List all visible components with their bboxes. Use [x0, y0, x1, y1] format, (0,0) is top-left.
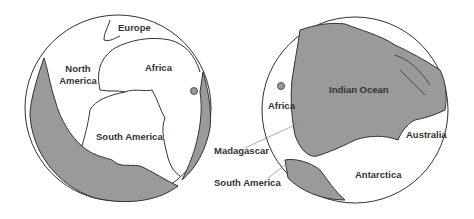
label-south-america-left: South America — [96, 131, 163, 142]
label-africa-right: Africa — [268, 100, 295, 111]
label-australia: Australia — [406, 129, 447, 140]
label-africa-left: Africa — [145, 62, 172, 73]
label-north-america-line2: America — [54, 75, 102, 86]
label-antarctica: Antarctica — [355, 169, 401, 180]
label-indian-ocean: Indian Ocean — [329, 84, 389, 95]
label-europe: Europe — [118, 22, 151, 33]
callout-madagascar: Madagascar — [214, 145, 269, 156]
left-globe — [25, 15, 211, 202]
callout-south-america: South America — [214, 177, 281, 188]
label-north-america-line1: North — [58, 63, 98, 74]
